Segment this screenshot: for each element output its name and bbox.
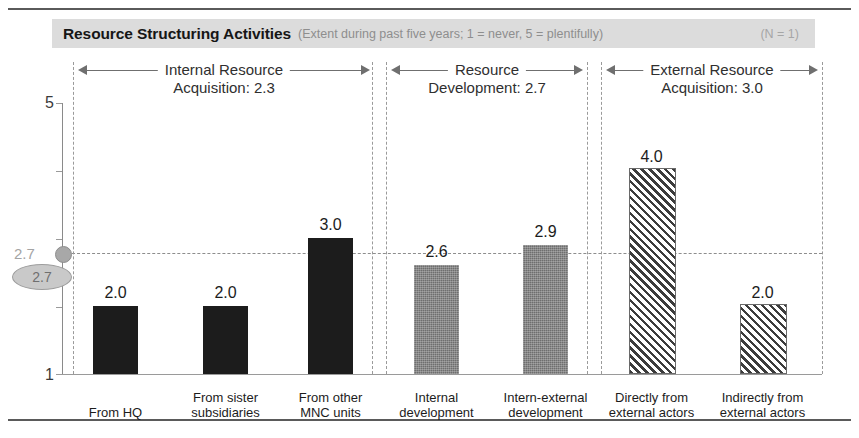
bar-value-label: 2.9: [534, 223, 556, 241]
bar-from-other-mnc-units[interactable]: 3.0 From other MNC units: [308, 0, 353, 438]
category-line1: Intern-external: [504, 390, 588, 405]
bar-value-label: 4.0: [640, 148, 662, 166]
group-separator-3: [386, 62, 387, 374]
bracket-arrow-right-icon: [361, 65, 370, 75]
category-line2: MNC units: [300, 405, 361, 420]
bar-value-label: 2.0: [751, 284, 773, 302]
group-separator-1: [73, 62, 74, 374]
category-line1: Internal: [415, 390, 458, 405]
y-axis-tick-4: [56, 171, 62, 172]
bar-category-label: Indirectly from external actors: [720, 390, 805, 420]
category-line1: Directly from: [615, 390, 688, 405]
bar-category-label: From HQ: [89, 405, 142, 420]
reference-callout-oval: 2.7: [12, 264, 72, 290]
group-separator-2: [372, 62, 373, 374]
bar-internal-development[interactable]: 2.6 Internal development: [414, 0, 459, 438]
bar-category-label: From other MNC units: [299, 390, 363, 420]
y-axis-label-bottom: 1: [24, 366, 54, 384]
category-line2: external actors: [609, 405, 694, 420]
category-line2: development: [399, 405, 473, 420]
y-axis-tick-2: [56, 307, 62, 308]
bar-intern-external-development[interactable]: 2.9 Intern-external development: [523, 0, 568, 438]
y-axis-line: [62, 103, 63, 375]
reference-marker-dot: [55, 246, 72, 263]
group-separator-5: [601, 62, 602, 374]
bar-category-label: Intern-external development: [504, 390, 588, 420]
bar-category-label: Directly from external actors: [609, 390, 694, 420]
reference-callout-value: 2.7: [32, 269, 51, 285]
bar-indirectly-from-external-actors[interactable]: 2.0 Indirectly from external actors: [740, 0, 785, 438]
category-line1: From other: [299, 390, 363, 405]
bar-category-label: Internal development: [399, 390, 473, 420]
bar-chart-plot: 5 1 2.7 2.7 Internal Resource Acquisitio…: [0, 0, 859, 438]
group-label-line1: Resource: [448, 61, 526, 78]
bar-rect[interactable]: [308, 238, 353, 374]
bar-from-hq[interactable]: 2.0 From HQ: [93, 0, 138, 438]
bar-rect[interactable]: [203, 306, 248, 374]
y-axis-label-top: 5: [24, 94, 54, 112]
bracket-arrow-right-icon: [809, 65, 818, 75]
category-line1: From sister: [193, 390, 258, 405]
bar-rect[interactable]: [93, 306, 138, 374]
bracket-arrow-right-icon: [574, 65, 583, 75]
bar-value-label: 2.0: [214, 284, 236, 302]
category-line1: Indirectly from: [722, 390, 804, 405]
y-axis-tick-3: [56, 239, 62, 240]
bar-rect[interactable]: [740, 304, 787, 374]
category-line1: From HQ: [89, 405, 142, 420]
bar-rect[interactable]: [523, 245, 568, 374]
bar-value-label: 3.0: [319, 216, 341, 234]
bar-category-label: From sister subsidiaries: [191, 390, 260, 420]
category-line2: subsidiaries: [191, 405, 260, 420]
bracket-arrow-left-icon: [606, 65, 615, 75]
y-axis-tick-1: [56, 374, 62, 375]
y-axis-tick-5: [56, 103, 62, 104]
category-line2: external actors: [720, 405, 805, 420]
category-line2: development: [508, 405, 582, 420]
bar-from-sister-subsidiaries[interactable]: 2.0 From sister subsidiaries: [203, 0, 248, 438]
bar-rect[interactable]: [629, 168, 676, 374]
group-separator-4: [587, 62, 588, 374]
bracket-arrow-left-icon: [391, 65, 400, 75]
bar-directly-from-external-actors[interactable]: 4.0 Directly from external actors: [629, 0, 674, 438]
bar-value-label: 2.0: [104, 284, 126, 302]
group-separator-6: [822, 62, 823, 374]
reference-line-value: 2.7: [14, 245, 35, 262]
bracket-arrow-left-icon: [78, 65, 87, 75]
bar-value-label: 2.6: [425, 243, 447, 261]
bar-rect[interactable]: [414, 265, 459, 374]
